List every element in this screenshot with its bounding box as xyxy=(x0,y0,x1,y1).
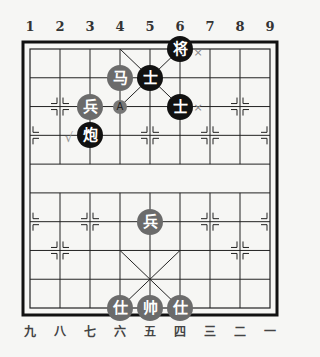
file-number-6: 6 xyxy=(170,19,190,34)
position-marker xyxy=(261,138,267,144)
file-label-8: 八 xyxy=(50,322,70,339)
target-marker-a[interactable]: A xyxy=(113,100,127,114)
black-piece-士[interactable]: 士 xyxy=(167,94,193,120)
file-label-2: 二 xyxy=(230,322,250,339)
position-marker xyxy=(243,241,249,247)
position-marker xyxy=(201,213,207,219)
position-marker xyxy=(213,225,219,231)
position-marker xyxy=(81,225,87,231)
position-marker xyxy=(213,213,219,219)
position-marker xyxy=(51,110,57,116)
position-marker xyxy=(213,138,219,144)
check-mark-icon: √ xyxy=(65,129,73,144)
position-marker xyxy=(33,126,39,132)
file-label-5: 五 xyxy=(140,322,160,339)
file-label-6: 六 xyxy=(110,322,130,339)
position-marker xyxy=(141,126,147,132)
position-marker xyxy=(231,110,237,116)
file-label-9: 九 xyxy=(20,322,40,339)
file-number-9: 9 xyxy=(260,19,280,34)
position-marker xyxy=(33,138,39,144)
position-marker xyxy=(63,253,69,259)
file-number-3: 3 xyxy=(80,19,100,34)
position-marker xyxy=(261,213,267,219)
position-marker xyxy=(231,241,237,247)
position-marker xyxy=(141,138,147,144)
position-marker xyxy=(63,98,69,104)
position-marker xyxy=(63,241,69,247)
position-marker xyxy=(243,110,249,116)
position-marker xyxy=(231,98,237,104)
file-label-4: 四 xyxy=(170,322,190,339)
black-piece-炮[interactable]: 炮 xyxy=(77,122,103,148)
red-piece-仕[interactable]: 仕 xyxy=(167,295,193,321)
x-mark-icon: × xyxy=(193,100,202,113)
position-marker xyxy=(243,253,249,259)
file-number-4: 4 xyxy=(110,19,130,34)
file-number-5: 5 xyxy=(140,19,160,34)
position-marker xyxy=(201,225,207,231)
position-marker xyxy=(201,138,207,144)
position-marker xyxy=(63,110,69,116)
position-marker xyxy=(213,126,219,132)
position-marker xyxy=(243,98,249,104)
position-marker xyxy=(33,213,39,219)
file-number-8: 8 xyxy=(230,19,250,34)
position-marker xyxy=(261,126,267,132)
position-marker xyxy=(153,138,159,144)
position-marker xyxy=(33,225,39,231)
file-label-3: 三 xyxy=(200,322,220,339)
position-marker xyxy=(93,213,99,219)
file-label-1: 一 xyxy=(260,322,280,339)
red-piece-兵[interactable]: 兵 xyxy=(137,209,163,235)
red-piece-仕[interactable]: 仕 xyxy=(107,295,133,321)
position-marker xyxy=(201,126,207,132)
position-marker xyxy=(51,241,57,247)
red-piece-兵[interactable]: 兵 xyxy=(77,94,103,120)
file-number-1: 1 xyxy=(20,19,40,34)
file-number-2: 2 xyxy=(50,19,70,34)
file-number-7: 7 xyxy=(200,19,220,34)
x-mark-icon: × xyxy=(193,45,202,58)
red-piece-马[interactable]: 马 xyxy=(107,65,133,91)
red-piece-帅[interactable]: 帅 xyxy=(137,295,163,321)
position-marker xyxy=(93,225,99,231)
position-marker xyxy=(153,126,159,132)
position-marker xyxy=(51,98,57,104)
position-marker xyxy=(261,225,267,231)
position-marker xyxy=(51,253,57,259)
black-piece-士[interactable]: 士 xyxy=(137,65,163,91)
black-piece-将[interactable]: 将 xyxy=(167,36,193,62)
position-marker xyxy=(81,213,87,219)
file-label-7: 七 xyxy=(80,322,100,339)
position-marker xyxy=(231,253,237,259)
